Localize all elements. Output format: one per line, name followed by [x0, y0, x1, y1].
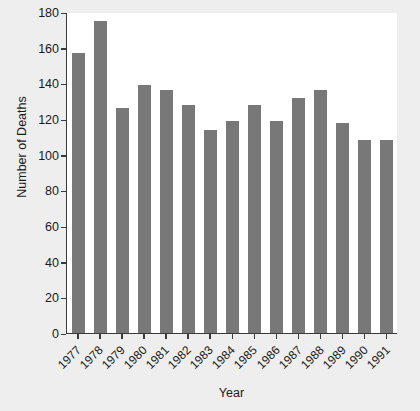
- y-axis-tick: 120: [38, 113, 66, 127]
- y-axis-tick: 80: [45, 184, 66, 198]
- x-axis-tick-mark: [209, 334, 211, 339]
- y-axis: 020406080100120140160180: [0, 0, 66, 347]
- bar: [270, 121, 283, 333]
- x-axis-tick-mark: [187, 334, 189, 339]
- bar: [138, 85, 151, 333]
- x-axis-tick-mark: [298, 334, 300, 339]
- bar: [116, 108, 129, 333]
- x-axis: 1977197819791980198119821983198419851986…: [66, 334, 397, 394]
- x-axis-tick-mark: [165, 334, 167, 339]
- bar-chart-figure: Number of Deaths 02040608010012014016018…: [0, 0, 420, 411]
- y-axis-tick: 180: [38, 6, 66, 20]
- y-axis-tick: 20: [45, 291, 66, 305]
- bar: [160, 90, 173, 333]
- bar-series: [67, 13, 397, 333]
- bar: [226, 121, 239, 333]
- bar: [94, 21, 107, 333]
- x-axis-tick-mark: [342, 334, 344, 339]
- bar: [380, 140, 393, 333]
- bar: [292, 98, 305, 333]
- y-axis-tick: 60: [45, 220, 66, 234]
- bar: [248, 105, 261, 333]
- bar: [358, 140, 371, 333]
- y-axis-tick: 40: [45, 256, 66, 270]
- x-axis-tick-label: 1987: [276, 343, 305, 372]
- x-axis-tick-mark: [364, 334, 366, 339]
- y-axis-tick: 0: [52, 327, 66, 341]
- x-axis-tick-mark: [99, 334, 101, 339]
- x-axis-tick-label: 1986: [254, 343, 283, 372]
- x-axis-tick-mark: [232, 334, 234, 339]
- y-axis-tick: 100: [38, 149, 66, 163]
- x-axis-tick-label: 1989: [320, 343, 349, 372]
- x-axis-tick-label: 1988: [298, 343, 327, 372]
- x-axis-tick-mark: [254, 334, 256, 339]
- bar: [314, 90, 327, 333]
- x-axis-tick-label: 1985: [231, 343, 260, 372]
- x-axis-tick-label: 1977: [55, 343, 84, 372]
- plot-area: [66, 13, 397, 334]
- x-axis-tick-label: 1990: [342, 343, 371, 372]
- x-axis-tick-label: 1991: [364, 343, 393, 372]
- bar: [72, 53, 85, 333]
- x-axis-tick-mark: [276, 334, 278, 339]
- bar: [182, 105, 195, 333]
- x-axis-tick-mark: [320, 334, 322, 339]
- x-axis-tick-mark: [143, 334, 145, 339]
- x-axis-title: Year: [66, 386, 397, 400]
- y-axis-tick: 140: [38, 77, 66, 91]
- x-axis-tick-mark: [121, 334, 123, 339]
- bar: [336, 123, 349, 333]
- x-axis-tick-mark: [386, 334, 388, 339]
- bar: [204, 130, 217, 333]
- x-axis-tick-mark: [77, 334, 79, 339]
- y-axis-tick: 160: [38, 42, 66, 56]
